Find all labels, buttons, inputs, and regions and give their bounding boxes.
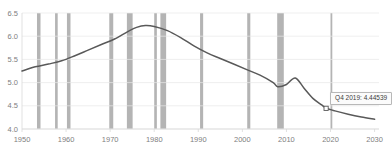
x-axis-tick-label: 2000 (234, 135, 251, 144)
y-axis-tick-labels: 4.04.55.05.56.06.5 (8, 9, 18, 134)
recession-band (200, 13, 203, 129)
recession-band (277, 13, 284, 129)
y-axis-tick-label: 4.5 (8, 101, 18, 110)
y-axis-tick-label: 4.0 (8, 125, 18, 134)
x-axis-tick-labels: 195019601970198019902000201020202030 (14, 135, 383, 144)
x-axis-tick-label: 1960 (58, 135, 75, 144)
x-axis-tick-label: 1980 (146, 135, 163, 144)
y-axis-tick-label: 6.5 (8, 9, 18, 18)
x-axis-tick-label: 2030 (366, 135, 383, 144)
recession-band (37, 13, 41, 129)
recession-band (154, 13, 157, 129)
selected-data-point[interactable] (324, 106, 328, 110)
recession-band (331, 13, 333, 129)
recession-band (67, 13, 71, 129)
x-axis-tick-label: 1990 (190, 135, 207, 144)
recession-band (109, 13, 113, 129)
y-axis-tick-label: 5.5 (8, 55, 18, 64)
highlight-point-marker[interactable] (324, 106, 328, 110)
x-axis-tick-label: 2020 (322, 135, 339, 144)
data-point-tooltip: Q4 2019: 4.44539 (330, 92, 392, 105)
recession-bands-group (37, 13, 332, 129)
x-axis-tick-label: 2010 (278, 135, 295, 144)
data-series-group (22, 25, 375, 119)
y-axis-tick-label: 5.0 (8, 78, 18, 87)
x-axis-tick-label: 1950 (14, 135, 31, 144)
recession-band (55, 13, 58, 129)
y-axis-tick-label: 6.0 (8, 32, 18, 41)
x-axis-tick-label: 1970 (102, 135, 119, 144)
series-line-value (22, 25, 375, 119)
